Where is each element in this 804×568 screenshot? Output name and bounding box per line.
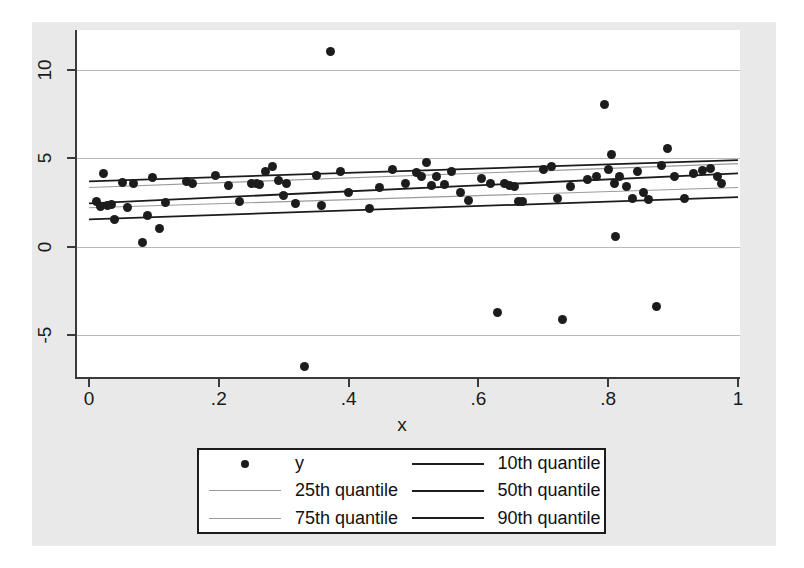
- scatter-point: [553, 194, 562, 203]
- legend-item-label: 10th quantile: [488, 453, 601, 474]
- scatter-point: [312, 171, 321, 180]
- y-axis-tick: [67, 246, 75, 248]
- scatter-point: [155, 224, 164, 233]
- scatter-point: [282, 179, 291, 188]
- scatter-point: [592, 172, 601, 181]
- legend: y10th quantile25th quantile50th quantile…: [197, 448, 606, 534]
- x-axis-tick-label: 1: [713, 388, 763, 410]
- scatter-point: [622, 182, 631, 191]
- scatter-point: [657, 161, 666, 170]
- legend-item[interactable]: 50th quantile: [402, 477, 605, 504]
- legend-line-icon: [209, 490, 281, 491]
- scatter-point: [99, 169, 108, 178]
- y-axis-tick: [67, 69, 75, 71]
- y-axis-line: [75, 30, 77, 379]
- gridline-y: [76, 70, 740, 71]
- scatter-point: [615, 172, 624, 181]
- x-axis-tick: [607, 379, 609, 387]
- scatter-point: [161, 198, 170, 207]
- legend-item-label: 90th quantile: [488, 508, 601, 529]
- scatter-point: [211, 171, 220, 180]
- legend-line-icon: [412, 490, 484, 492]
- scatter-point: [486, 179, 495, 188]
- scatter-point: [255, 180, 264, 189]
- scatter-point: [291, 199, 300, 208]
- legend-line-icon: [209, 518, 281, 519]
- x-axis-tick: [348, 379, 350, 387]
- x-axis-tick: [218, 379, 220, 387]
- scatter-point: [268, 162, 277, 171]
- y-axis-tick-label: 10: [34, 55, 56, 85]
- x-axis-tick: [477, 379, 479, 387]
- scatter-point: [432, 172, 441, 181]
- legend-item[interactable]: 25th quantile: [199, 477, 402, 504]
- scatter-point: [107, 200, 116, 209]
- legend-item[interactable]: 75th quantile: [199, 505, 402, 532]
- gridline-y: [76, 335, 740, 336]
- legend-key-line: [205, 490, 285, 491]
- graph-screenshot: -505100.2.4.6.81 x y10th quantile25th qu…: [0, 0, 804, 568]
- scatter-point: [604, 165, 613, 174]
- scatter-point: [365, 204, 374, 213]
- scatter-point: [706, 164, 715, 173]
- legend-key-line: [408, 517, 488, 519]
- y-axis-tick: [67, 157, 75, 159]
- x-axis-tick: [88, 379, 90, 387]
- plot-region: [76, 30, 740, 378]
- y-axis-tick-label: -5: [34, 320, 56, 350]
- legend-line-icon: [412, 463, 484, 465]
- scatter-point: [493, 308, 502, 317]
- legend-item[interactable]: y: [199, 450, 402, 477]
- scatter-point: [670, 172, 679, 181]
- y-axis-tick-label: 5: [34, 143, 56, 173]
- legend-item-label: 50th quantile: [488, 480, 601, 501]
- scatter-point: [456, 188, 465, 197]
- legend-item[interactable]: 10th quantile: [402, 450, 605, 477]
- x-axis-tick-label: .4: [324, 388, 374, 410]
- y-axis-tick-label: 0: [34, 232, 56, 262]
- x-axis-tick-label: 0: [64, 388, 114, 410]
- legend-line-icon: [412, 517, 484, 519]
- x-axis-tick-label: .6: [453, 388, 503, 410]
- scatter-point: [326, 47, 335, 56]
- legend-item[interactable]: 90th quantile: [402, 505, 605, 532]
- scatter-point: [129, 179, 138, 188]
- x-axis-line: [75, 377, 740, 379]
- legend-grid: y10th quantile25th quantile50th quantile…: [199, 450, 604, 532]
- scatter-point: [633, 167, 642, 176]
- gridline-y: [76, 247, 740, 248]
- x-axis-tick: [737, 379, 739, 387]
- x-axis-tick-label: .2: [194, 388, 244, 410]
- legend-key-line: [408, 490, 488, 492]
- x-axis-tick-label: .8: [583, 388, 633, 410]
- legend-item-label: 75th quantile: [285, 508, 398, 529]
- scatter-point: [510, 182, 519, 191]
- legend-key-line: [408, 463, 488, 465]
- legend-key-marker: [205, 460, 285, 468]
- scatter-point: [547, 162, 556, 171]
- scatter-point: [317, 201, 326, 210]
- scatter-point: [118, 178, 127, 187]
- legend-item-label: y: [285, 453, 304, 474]
- scatter-point: [138, 238, 147, 247]
- y-axis-tick: [67, 334, 75, 336]
- legend-key-line: [205, 518, 285, 519]
- gridline-y: [76, 158, 740, 159]
- legend-marker-icon: [241, 460, 249, 468]
- scatter-point: [401, 179, 410, 188]
- scatter-point: [447, 167, 456, 176]
- x-axis-title: x: [0, 414, 804, 436]
- scatter-point: [583, 175, 592, 184]
- legend-item-label: 25th quantile: [285, 480, 398, 501]
